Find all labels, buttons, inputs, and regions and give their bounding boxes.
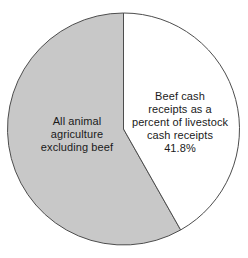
label-line-3: percent of livestock <box>126 116 234 129</box>
pie-slice-label-beef-cash-receipts: Beef cash receipts as a percent of lives… <box>126 90 234 155</box>
label-line-2: receipts as a <box>126 103 234 116</box>
label-line-4: cash receipts <box>126 129 234 142</box>
label-line-3: excluding beef <box>25 141 129 154</box>
label-line-2: agriculture <box>25 128 129 141</box>
label-value-percent: 41.8% <box>126 142 234 155</box>
label-line-1: All animal <box>25 115 129 128</box>
pie-chart: Beef cash receipts as a percent of lives… <box>0 0 248 258</box>
pie-slice-label-all-animal-agriculture-excluding-beef: All animal agriculture excluding beef <box>25 115 129 154</box>
label-line-1: Beef cash <box>126 90 234 103</box>
